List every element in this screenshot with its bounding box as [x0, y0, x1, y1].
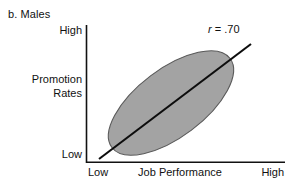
y-axis-high-label: High — [59, 24, 82, 37]
x-axis-high-label: High — [261, 166, 284, 179]
data-ellipse — [91, 31, 250, 174]
figure-panel: b. Males High Low Promotion Rates Low Jo… — [0, 0, 288, 186]
correlation-annotation: r = .70 — [208, 23, 240, 36]
y-axis-title: Promotion Rates — [0, 72, 82, 100]
y-axis-title-line2: Rates — [0, 86, 82, 100]
y-axis-low-label: Low — [62, 148, 82, 161]
correlation-equals: = — [212, 23, 225, 35]
x-axis-title: Job Performance — [0, 166, 288, 179]
y-axis-title-line1: Promotion — [0, 72, 82, 86]
correlation-value: .70 — [224, 23, 239, 35]
